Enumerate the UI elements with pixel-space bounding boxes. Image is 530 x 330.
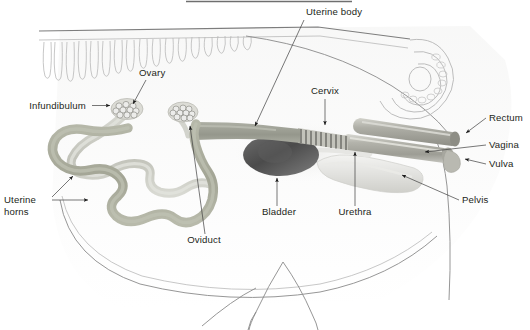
- oviduct-label: Oviduct: [187, 234, 221, 245]
- vulva-label: Vulva: [489, 158, 514, 169]
- urethra-label: Urethra: [338, 206, 372, 217]
- vagina-label: Vagina: [489, 139, 520, 150]
- ovary-label: Ovary: [139, 67, 165, 78]
- diagram-canvas: Uterine body Ovary Infundibulum Cervix R…: [0, 0, 530, 330]
- pelvis-label: Pelvis: [462, 194, 489, 205]
- anatomy-diagram: Uterine body Ovary Infundibulum Cervix R…: [0, 0, 530, 330]
- ovary-left: [111, 99, 143, 120]
- uterine-horns-label-line2: horns: [4, 206, 29, 217]
- ovary-right: [168, 102, 198, 122]
- infundibulum-label: Infundibulum: [29, 100, 86, 111]
- bladder-label: Bladder: [262, 206, 297, 217]
- uterine-body-label: Uterine body: [306, 6, 362, 17]
- uterine-horns-label-line1: Uterine: [4, 194, 36, 205]
- cervix-label: Cervix: [311, 85, 339, 96]
- rectum-label: Rectum: [489, 112, 523, 123]
